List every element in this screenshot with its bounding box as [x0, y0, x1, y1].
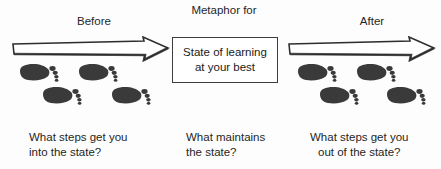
state-of-learning-box: State of learning at your best — [172, 37, 278, 83]
label-before: Before — [52, 14, 136, 28]
caption-after-line-2: out of the state? — [310, 145, 408, 160]
footprint-icon — [315, 85, 361, 107]
state-box-line-1: State of learning — [183, 45, 267, 60]
label-metaphor-for: Metaphor for — [163, 3, 285, 17]
footprint-icon — [382, 85, 428, 107]
caption-after-line-1: What steps get you — [310, 130, 408, 145]
diagram-canvas: Before Metaphor for After State of learn… — [0, 0, 441, 169]
caption-during: What maintains the state? — [186, 130, 265, 160]
footprint-icon — [38, 85, 84, 107]
caption-during-line-1: What maintains — [186, 130, 265, 145]
footprint-icon — [293, 62, 339, 84]
arrow-left-icon — [12, 36, 170, 62]
footprint-icon — [352, 62, 398, 84]
caption-before: What steps get you into the state? — [29, 130, 127, 160]
caption-after: What steps get you out of the state? — [310, 130, 408, 160]
state-box-line-2: at your best — [195, 60, 255, 75]
caption-before-line-1: What steps get you — [29, 130, 127, 145]
footprint-icon — [15, 62, 61, 84]
caption-during-line-2: the state? — [186, 145, 265, 160]
caption-before-line-2: into the state? — [29, 145, 127, 160]
footprint-icon — [107, 85, 153, 107]
footprint-icon — [74, 62, 120, 84]
arrow-right-icon — [288, 36, 436, 62]
label-after: After — [330, 14, 414, 28]
